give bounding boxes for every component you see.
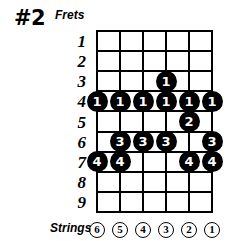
finger-dot: 4	[179, 151, 200, 172]
fret-line	[96, 70, 213, 72]
string-line	[142, 31, 144, 212]
fret-number: 5	[66, 114, 86, 131]
string-number: 2	[181, 222, 197, 238]
fret-line	[96, 191, 213, 193]
fret-number: 1	[66, 33, 86, 50]
frets-axis-label: Frets	[55, 8, 84, 22]
finger-dot: 4	[202, 151, 223, 172]
finger-dot: 1	[156, 71, 177, 92]
fret-line	[96, 50, 213, 52]
finger-dot: 3	[110, 131, 131, 152]
finger-dot: 2	[179, 111, 200, 132]
finger-dot: 1	[156, 91, 177, 112]
fret-number: 4	[66, 93, 86, 110]
string-number: 6	[89, 222, 105, 238]
string-number: 5	[112, 222, 128, 238]
finger-dot: 3	[156, 131, 177, 152]
strings-axis-label: Strings	[50, 221, 91, 235]
string-line	[211, 31, 213, 212]
finger-dot: 1	[133, 91, 154, 112]
fret-number: 7	[66, 154, 86, 171]
finger-dot: 1	[179, 91, 200, 112]
fret-number: 2	[66, 53, 86, 70]
finger-dot: 4	[87, 151, 108, 172]
chord-diagram: #2 Frets Strings 123456789 1111111233334…	[0, 0, 229, 241]
finger-dot: 1	[110, 91, 131, 112]
finger-dot: 4	[110, 151, 131, 172]
string-line	[165, 31, 167, 212]
string-number: 4	[135, 222, 151, 238]
fret-line	[96, 30, 213, 32]
fret-number: 6	[66, 134, 86, 151]
page-title: #2	[14, 6, 45, 30]
fret-line	[96, 211, 213, 213]
finger-dot: 1	[202, 91, 223, 112]
fret-line	[96, 171, 213, 173]
fret-number: 3	[66, 73, 86, 90]
string-line	[96, 31, 98, 212]
string-number: 1	[204, 222, 220, 238]
finger-dot: 3	[202, 131, 223, 152]
string-number: 3	[158, 222, 174, 238]
finger-dot: 1	[87, 91, 108, 112]
fret-number: 9	[66, 194, 86, 211]
fret-number: 8	[66, 174, 86, 191]
finger-dot: 3	[133, 131, 154, 152]
string-line	[119, 31, 121, 212]
